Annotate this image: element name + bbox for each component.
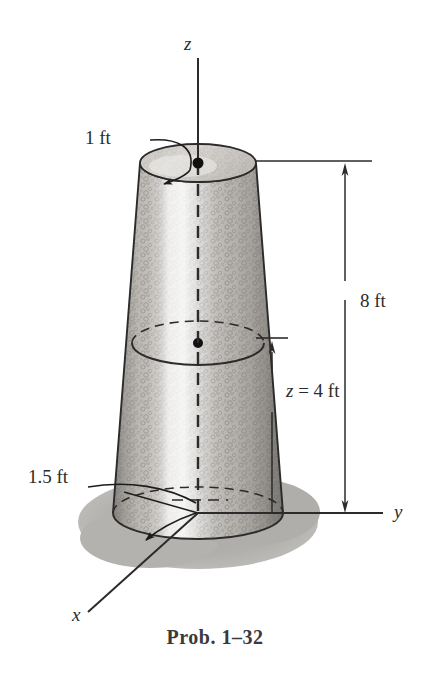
frustum-diagram-svg [0, 0, 430, 674]
base-radius-label: 1.5 ft [28, 467, 68, 486]
total-height-label: 8 ft [355, 288, 391, 313]
figure-caption: Prob. 1–32 [0, 626, 430, 649]
mid-height-label: z = 4 ft [282, 378, 343, 403]
z-axis-label: z [184, 34, 191, 53]
top-center-dot [193, 158, 204, 169]
top-radius-label: 1 ft [85, 128, 111, 147]
x-axis-label: x [72, 605, 80, 624]
mid-height-value: = 4 ft [298, 380, 339, 401]
y-axis-label: y [394, 502, 402, 521]
mid-height-variable: z [286, 380, 293, 401]
problem-figure [0, 0, 430, 674]
